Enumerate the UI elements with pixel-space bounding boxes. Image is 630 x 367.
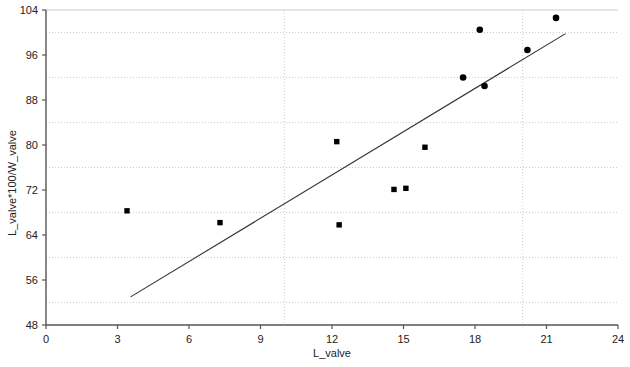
- data-point-marker: [334, 139, 339, 144]
- y-tick-label: 88: [26, 94, 38, 106]
- x-tick-label: 24: [612, 333, 624, 345]
- y-tick-label: 48: [26, 319, 38, 331]
- data-point-marker: [403, 186, 408, 191]
- y-tick-label: 64: [26, 229, 38, 241]
- x-tick-label: 3: [114, 333, 120, 345]
- data-point-marker: [553, 15, 560, 22]
- y-tick-label: 80: [26, 139, 38, 151]
- data-point-marker: [476, 26, 483, 33]
- x-tick-label: 9: [257, 333, 263, 345]
- y-axis-title: L_valve*100/W_valve: [6, 130, 18, 236]
- x-tick-label: 15: [397, 333, 409, 345]
- y-tick-label: 72: [26, 184, 38, 196]
- plot-canvas: 4856647280889610403691215182124 L_valve …: [0, 0, 630, 367]
- data-point-marker: [217, 220, 222, 225]
- x-tick-label: 21: [540, 333, 552, 345]
- data-point-marker: [336, 222, 341, 227]
- y-tick-label: 104: [20, 4, 38, 16]
- x-axis-title: L_valve: [313, 347, 351, 359]
- figure-background: [0, 0, 630, 367]
- scatter-plot-figure: 4856647280889610403691215182124 L_valve …: [0, 0, 630, 367]
- data-point-marker: [481, 83, 488, 90]
- x-tick-label: 6: [186, 333, 192, 345]
- data-point-marker: [124, 208, 129, 213]
- data-point-marker: [460, 74, 467, 81]
- data-point-marker: [422, 145, 427, 150]
- y-tick-label: 96: [26, 49, 38, 61]
- data-point-marker: [524, 47, 531, 54]
- x-tick-label: 12: [326, 333, 338, 345]
- data-point-marker: [391, 187, 396, 192]
- y-tick-label: 56: [26, 274, 38, 286]
- x-tick-label: 0: [43, 333, 49, 345]
- x-tick-label: 18: [469, 333, 481, 345]
